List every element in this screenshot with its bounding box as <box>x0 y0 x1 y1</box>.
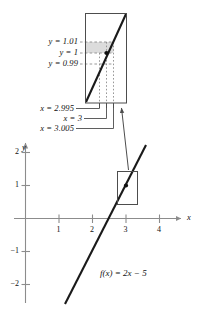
zoom-window-rect <box>118 172 138 205</box>
y-tick-label-2: 2 <box>4 148 19 156</box>
figure-graphics <box>0 0 199 312</box>
y-tick-label-neg2: −2 <box>2 280 19 288</box>
inset-x-label-3: x = 3.005 <box>16 124 74 133</box>
function-line <box>65 145 146 304</box>
inset-x-label-1: x = 2.995 <box>16 104 74 113</box>
inset-y-label-3: y = 0.99 <box>24 59 78 68</box>
function-equation-label: f(x) = 2x − 5 <box>100 269 147 278</box>
main-axes <box>14 143 181 303</box>
y-axis-label: y <box>22 143 26 152</box>
inset-center-point <box>104 51 108 55</box>
inset-y-label-2: y = 1 <box>24 48 78 57</box>
x-tick-label-4: 4 <box>157 226 161 234</box>
x-tick-label-3: 3 <box>124 226 128 234</box>
y-tick-label-1: 1 <box>4 181 19 189</box>
inset-x-label-2: x = 3 <box>24 114 82 123</box>
y-tick-label-neg1: −1 <box>2 247 19 255</box>
math-figure: y = 1.01 y = 1 y = 0.99 x = 2.995 x = 3 … <box>0 0 199 312</box>
x-axis-label: x <box>187 213 191 222</box>
callout-arrow <box>122 108 129 170</box>
inset-box <box>80 14 127 109</box>
x-tick-label-2: 2 <box>90 226 94 234</box>
inset-function-line <box>86 14 126 102</box>
inset-y-label-1: y = 1.01 <box>24 37 78 46</box>
x-tick-label-1: 1 <box>57 226 61 234</box>
zoom-window-point <box>124 183 128 187</box>
inset-x-tickmarks <box>100 103 114 108</box>
